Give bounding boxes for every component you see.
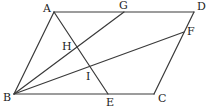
point-label-c: C (158, 92, 166, 105)
point-label-d: D (197, 0, 206, 13)
point-label-h: H (62, 40, 72, 53)
point-label-f: F (187, 25, 195, 38)
point-label-a: A (42, 2, 52, 15)
segments-group (14, 12, 194, 94)
point-label-i: I (86, 70, 90, 83)
point-label-e: E (106, 96, 114, 108)
point-label-g: G (119, 0, 128, 12)
point-label-b: B (3, 91, 11, 104)
diagram-canvas: ADBCGFEHI (0, 0, 208, 108)
geometry-diagram: ADBCGFEHI (0, 0, 208, 108)
segment-ae (54, 12, 108, 94)
segment-bg (14, 12, 124, 94)
